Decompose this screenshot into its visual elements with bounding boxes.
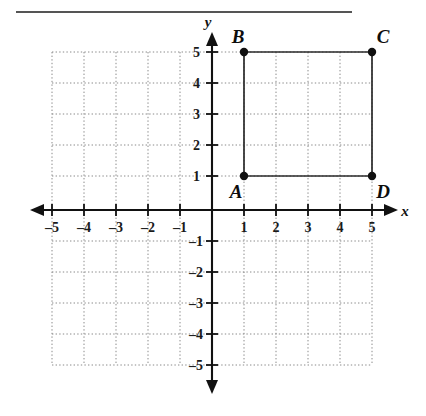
point-a-dot bbox=[240, 172, 248, 180]
y-tick-label: 5 bbox=[193, 45, 200, 60]
point-label-d: D bbox=[375, 181, 390, 202]
x-tick-label: 3 bbox=[305, 220, 312, 235]
y-tick-label: 4 bbox=[193, 76, 200, 91]
y-axis-bottom-arrow bbox=[206, 380, 218, 394]
x-tick-label: –2 bbox=[140, 220, 155, 235]
x-axis-left-arrow bbox=[30, 204, 44, 216]
point-label-b: B bbox=[231, 26, 245, 47]
point-c-dot bbox=[368, 48, 376, 56]
y-axis-top-arrow bbox=[206, 32, 218, 46]
point-label-c: C bbox=[377, 26, 390, 47]
x-tick-label: 4 bbox=[337, 220, 344, 235]
y-tick-label: 2 bbox=[193, 138, 200, 153]
y-tick-label: –1 bbox=[188, 234, 203, 249]
x-axis bbox=[30, 204, 398, 216]
x-tick-label: –5 bbox=[44, 220, 59, 235]
coordinate-plane-figure: –5 –4 –3 –2 –1 1 2 3 4 5 5 4 3 2 1 –1 –2… bbox=[0, 0, 426, 416]
point-label-a: A bbox=[229, 181, 243, 202]
y-tick-label: –4 bbox=[188, 327, 203, 342]
y-tick-label: 1 bbox=[193, 169, 200, 184]
y-tick-label: –3 bbox=[188, 296, 203, 311]
point-b-dot bbox=[240, 48, 248, 56]
x-tick-label: –4 bbox=[76, 220, 91, 235]
y-axis-label: y bbox=[203, 14, 212, 30]
y-axis bbox=[206, 32, 218, 394]
x-tick-label: 5 bbox=[369, 220, 376, 235]
x-tick-label: 1 bbox=[241, 220, 248, 235]
x-axis-label: x bbox=[400, 203, 409, 219]
x-axis-right-arrow bbox=[384, 204, 398, 216]
x-tick-label: –1 bbox=[172, 220, 187, 235]
y-tick-label: –5 bbox=[188, 358, 203, 373]
point-d-dot bbox=[368, 172, 376, 180]
x-tick-label: 2 bbox=[273, 220, 280, 235]
x-axis-tick-labels: –5 –4 –3 –2 –1 1 2 3 4 5 bbox=[44, 220, 376, 235]
coordinate-plane-svg: –5 –4 –3 –2 –1 1 2 3 4 5 5 4 3 2 1 –1 –2… bbox=[0, 0, 426, 416]
y-tick-label: 3 bbox=[193, 107, 200, 122]
y-tick-label: –2 bbox=[188, 265, 203, 280]
x-tick-label: –3 bbox=[108, 220, 123, 235]
